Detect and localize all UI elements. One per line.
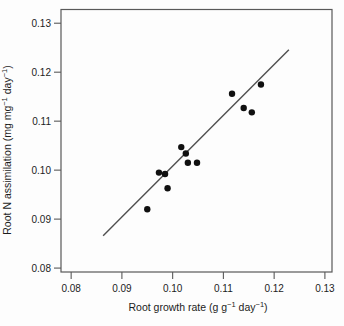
data-point [240, 105, 246, 111]
data-point [162, 171, 168, 177]
data-point [144, 206, 150, 212]
x-tick-label: 0.13 [315, 283, 335, 294]
data-point [178, 144, 184, 150]
y-tick-label: 0.08 [32, 263, 52, 274]
x-tick-label: 0.10 [163, 283, 183, 294]
chart-canvas: 0.080.090.100.110.120.130.080.090.100.11… [0, 0, 344, 326]
scatter-figure: 0.080.090.100.110.120.130.080.090.100.11… [0, 0, 344, 326]
data-point [164, 185, 170, 191]
data-point [183, 150, 189, 156]
data-point [185, 160, 191, 166]
x-tick-label: 0.09 [112, 283, 132, 294]
y-tick-label: 0.13 [32, 18, 52, 29]
data-point [156, 169, 162, 175]
data-point [229, 91, 235, 97]
y-tick-label: 0.12 [32, 67, 52, 78]
plot-frame [61, 10, 332, 273]
trend-line [103, 50, 289, 236]
y-tick-label: 0.10 [32, 165, 52, 176]
y-axis-label: Root N assimilation (mg mg−1 day−1) [0, 65, 13, 234]
data-point [194, 160, 200, 166]
y-tick-label: 0.09 [32, 214, 52, 225]
data-point [258, 81, 264, 87]
x-axis-label: Root growth rate (g g−1 day−1) [128, 300, 267, 313]
data-point [249, 109, 255, 115]
x-tick-label: 0.08 [61, 283, 81, 294]
y-tick-label: 0.11 [32, 116, 51, 127]
x-tick-label: 0.12 [264, 283, 284, 294]
x-tick-label: 0.11 [214, 283, 233, 294]
